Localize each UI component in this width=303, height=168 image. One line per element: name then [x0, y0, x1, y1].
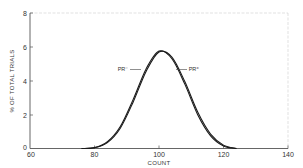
pr-minus-annotation: PR⁻ — [118, 66, 141, 72]
x-tick-80: 80 — [91, 151, 99, 158]
pr-plus-label: PR⁺ — [189, 66, 200, 72]
y-ticks — [30, 13, 33, 115]
distribution-chart: 8 6 4 2 0 60 80 100 120 140 COUNT % OF T… — [0, 0, 303, 168]
x-tick-120: 120 — [218, 151, 230, 158]
series-group — [82, 51, 237, 149]
y-tick-4: 4 — [23, 78, 27, 85]
y-tick-6: 6 — [23, 44, 27, 51]
y-tick-0: 0 — [23, 144, 27, 151]
pr-minus-curve — [82, 51, 237, 149]
pr-plus-curve — [82, 51, 237, 148]
x-tick-140: 140 — [282, 151, 294, 158]
x-tick-labels: 60 80 100 120 140 — [27, 151, 294, 158]
x-axis-title: COUNT — [148, 160, 171, 166]
x-tick-100: 100 — [153, 151, 165, 158]
plot-frame — [30, 13, 288, 149]
y-tick-labels: 8 6 4 2 0 — [23, 10, 27, 152]
y-tick-2: 2 — [23, 112, 27, 119]
pr-minus-label: PR⁻ — [118, 66, 129, 72]
y-axis-title: % OF TOTAL TRIALS — [9, 49, 15, 112]
y-tick-8: 8 — [23, 10, 27, 17]
x-tick-60: 60 — [27, 151, 35, 158]
